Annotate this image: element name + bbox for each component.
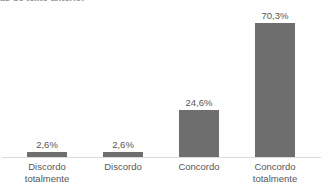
category-label-3-line-0: Concordo [237,161,313,173]
plot-area: 2,6% Discordo totalmente 2,6% Discordo 2… [0,0,325,189]
category-label-0: Discordo totalmente [9,161,85,184]
bar-group-0: 2,6% Discordo totalmente [9,0,85,189]
bar-3[interactable] [255,23,295,157]
bar-value-label-0: 2,6% [9,139,85,150]
category-label-2-line-0: Concordo [161,161,237,173]
bar-group-1: 2,6% Discordo [85,0,161,189]
bar-value-label-3: 70,3% [237,10,313,21]
category-label-2: Concordo [161,161,237,173]
bar-1[interactable] [103,152,143,157]
category-label-0-line-0: Discordo [9,161,85,173]
category-label-1: Discordo [85,161,161,173]
bar-group-3: 70,3% Concordo totalmente [237,0,313,189]
bar-value-label-1: 2,6% [85,139,161,150]
category-label-3: Concordo totalmente [237,161,313,184]
bar-group-2: 24,6% Concordo [161,0,237,189]
bar-2[interactable] [179,110,219,157]
bar-value-label-2: 24,6% [161,97,237,108]
bar-0[interactable] [27,152,67,157]
bar-chart-figure: as de texto anterior 2,6% Discordo total… [0,0,325,189]
category-label-3-line-1: totalmente [237,173,313,185]
category-label-0-line-1: totalmente [9,173,85,185]
category-label-1-line-0: Discordo [85,161,161,173]
